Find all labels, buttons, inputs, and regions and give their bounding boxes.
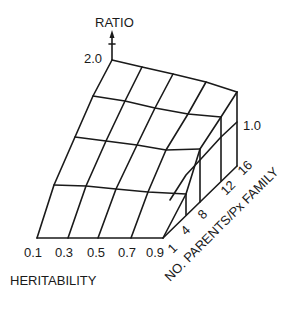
x-axis-label: HERITABILITY — [10, 273, 97, 288]
y-tick-4: 4 — [178, 222, 194, 238]
x-tick-0.9: 0.9 — [146, 245, 164, 260]
x-tick-0.5: 0.5 — [87, 245, 105, 260]
z-tick-1: 1.0 — [243, 118, 261, 133]
x-tick-0.7: 0.7 — [118, 245, 136, 260]
surface-parents-lines — [37, 60, 237, 238]
y-tick-1: 1 — [165, 240, 181, 256]
x-tick-0.3: 0.3 — [55, 245, 73, 260]
z-axis — [109, 30, 115, 60]
surface-heritability-lines — [37, 60, 237, 238]
x-tick-0.1: 0.1 — [24, 245, 42, 260]
z-axis-label: RATIO — [95, 15, 134, 30]
surface-chart: RATIO 2.0 1.0 0.1 0.3 0.5 0.7 0.9 HERITA… — [0, 0, 308, 311]
z-tick-2: 2.0 — [84, 51, 102, 66]
y-tick-8: 8 — [195, 206, 211, 222]
